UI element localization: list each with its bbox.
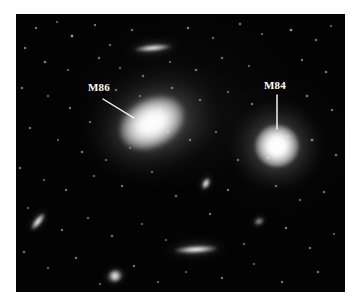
leader-line-m86	[103, 99, 134, 118]
astronomy-photo-plate: M86 M84	[16, 14, 345, 292]
galaxy-label-m84: M84	[264, 80, 286, 91]
annotation-leader-lines	[16, 14, 345, 292]
galaxy-label-m86: M86	[88, 82, 110, 93]
figure-page: M86 M84	[0, 0, 360, 304]
